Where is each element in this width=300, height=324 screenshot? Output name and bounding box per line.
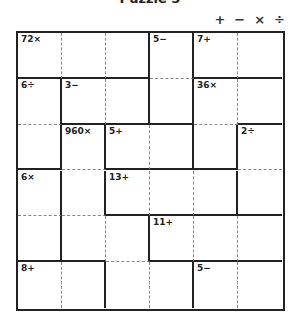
cage-clue: 6× [21,173,35,182]
grid-cell[interactable] [238,216,282,262]
grid-cell[interactable] [106,216,150,262]
cage-clue: 11+ [153,218,173,227]
operator-legend: + − × ÷ [214,12,285,27]
grid-cell[interactable] [62,216,106,262]
cage-clue: 3− [65,81,79,90]
grid-cell[interactable]: 5− [150,33,194,79]
grid-cell[interactable] [18,216,62,262]
grid-cell[interactable]: 6÷ [18,79,62,125]
cage-clue: 36× [197,81,217,90]
grid-cell[interactable] [106,33,150,79]
cage-clue: 6÷ [21,81,35,90]
grid-cell[interactable]: 8+ [18,262,62,308]
grid-cell[interactable] [194,125,238,171]
grid-cell[interactable] [62,171,106,217]
grid-cell[interactable] [62,33,106,79]
grid-cell[interactable]: 5+ [106,125,150,171]
grid-cell[interactable]: 72× [18,33,62,79]
divide-operator: ÷ [274,12,285,27]
cage-clue: 13+ [109,173,129,182]
times-operator: × [254,12,265,27]
grid-cell[interactable] [150,125,194,171]
cage-clue: 5− [153,35,167,44]
kenken-grid: 72×5−7+6÷3−36×960×5+2÷6×13+11+8+5− [16,31,285,311]
grid-cell[interactable]: 3− [62,79,106,125]
cage-clue: 72× [21,35,41,44]
grid-cell[interactable] [18,125,62,171]
grid-cell[interactable] [150,79,194,125]
grid-cell[interactable]: 36× [194,79,238,125]
grid-cell[interactable]: 960× [62,125,106,171]
grid-cell[interactable] [106,79,150,125]
cage-clue: 5+ [109,127,123,136]
grid-cell[interactable]: 7+ [194,33,238,79]
grid-cell[interactable]: 13+ [106,171,150,217]
grid-cell[interactable] [106,262,150,308]
grid-cell[interactable] [194,171,238,217]
grid-cell[interactable] [238,79,282,125]
grid-cell[interactable]: 11+ [150,216,194,262]
grid-cell[interactable] [238,171,282,217]
grid-cell[interactable] [238,262,282,308]
cage-clue: 8+ [21,264,35,273]
cage-clue: 7+ [197,35,211,44]
grid-cell[interactable] [194,216,238,262]
grid-cell[interactable]: 5− [194,262,238,308]
grid-cell[interactable] [150,262,194,308]
grid-cell[interactable] [150,171,194,217]
grid-cell[interactable]: 6× [18,171,62,217]
puzzle-title: Puzzle 5 [0,0,300,6]
grid-cell[interactable]: 2÷ [238,125,282,171]
grid-cell[interactable] [238,33,282,79]
cage-clue: 960× [65,127,91,136]
plus-operator: + [214,12,225,27]
minus-operator: − [234,12,245,27]
cage-clue: 5− [197,264,211,273]
grid-cell[interactable] [62,262,106,308]
cage-clue: 2÷ [241,127,255,136]
